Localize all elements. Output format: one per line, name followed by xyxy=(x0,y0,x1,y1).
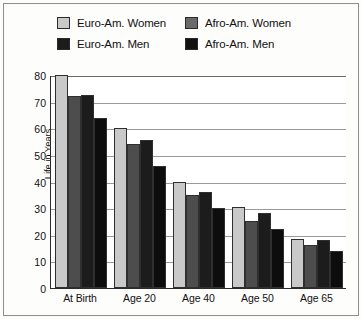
chart-figure: Euro-Am. Women Afro-Am. Women Euro-Am. M… xyxy=(0,0,362,319)
bar[interactable] xyxy=(68,96,81,288)
bar-group xyxy=(232,76,284,288)
bar-group xyxy=(291,76,343,288)
legend-item-euro-am-women: Euro-Am. Women xyxy=(57,17,185,29)
legend-label: Euro-Am. Men xyxy=(77,38,149,50)
bar[interactable] xyxy=(140,140,153,288)
bar[interactable] xyxy=(330,251,343,288)
bar-group xyxy=(55,76,107,288)
chart-legend: Euro-Am. Women Afro-Am. Women Euro-Am. M… xyxy=(57,12,337,54)
y-axis-tick-label: 80 xyxy=(34,70,46,82)
legend-swatch-icon xyxy=(57,17,70,29)
bar[interactable] xyxy=(186,195,199,288)
bar[interactable] xyxy=(127,144,140,288)
legend-swatch-icon xyxy=(185,38,198,50)
x-axis-ticks: At BirthAge 20Age 40Age 50Age 65 xyxy=(50,292,346,304)
bar-group xyxy=(114,76,166,288)
y-axis-tick-label: 40 xyxy=(34,177,46,189)
bar[interactable] xyxy=(81,95,94,288)
y-axis-tick-label: 0 xyxy=(40,283,46,295)
bar[interactable] xyxy=(232,207,245,288)
bar[interactable] xyxy=(199,192,212,288)
bar[interactable] xyxy=(245,221,258,288)
legend-swatch-icon xyxy=(57,38,70,50)
y-axis-tick-label: 70 xyxy=(34,97,46,109)
bar[interactable] xyxy=(94,118,107,288)
bar[interactable] xyxy=(271,229,284,288)
x-axis-tick-label: Age 50 xyxy=(241,292,274,304)
x-axis-tick-label: Age 65 xyxy=(300,292,333,304)
bar[interactable] xyxy=(304,245,317,288)
legend-item-euro-am-men: Euro-Am. Men xyxy=(57,38,185,50)
bar[interactable] xyxy=(258,213,271,288)
plot-area: 80706050403020100 xyxy=(50,76,346,289)
y-axis-tick-label: 60 xyxy=(34,123,46,135)
y-axis-tick-label: 20 xyxy=(34,230,46,242)
bar[interactable] xyxy=(291,239,304,288)
bar[interactable] xyxy=(114,128,127,288)
bar-groups xyxy=(51,76,346,288)
bar-group xyxy=(173,76,225,288)
x-axis-tick-label: At Birth xyxy=(63,292,97,304)
bar[interactable] xyxy=(212,208,225,288)
x-axis-tick-label: Age 20 xyxy=(123,292,156,304)
legend-label: Afro-Am. Women xyxy=(205,17,291,29)
x-axis-tick-label: Age 40 xyxy=(182,292,215,304)
legend-label: Afro-Am. Men xyxy=(205,38,274,50)
gridline: 0 xyxy=(51,289,346,290)
y-axis-tick-label: 50 xyxy=(34,150,46,162)
y-axis-tick-label: 10 xyxy=(34,256,46,268)
y-axis-tick-label: 30 xyxy=(34,203,46,215)
legend-label: Euro-Am. Women xyxy=(77,17,166,29)
bar[interactable] xyxy=(55,75,68,288)
legend-item-afro-am-men: Afro-Am. Men xyxy=(185,38,313,50)
legend-swatch-icon xyxy=(185,17,198,29)
legend-item-afro-am-women: Afro-Am. Women xyxy=(185,17,313,29)
bar[interactable] xyxy=(317,240,330,288)
bar[interactable] xyxy=(173,182,186,289)
bar[interactable] xyxy=(153,166,166,288)
